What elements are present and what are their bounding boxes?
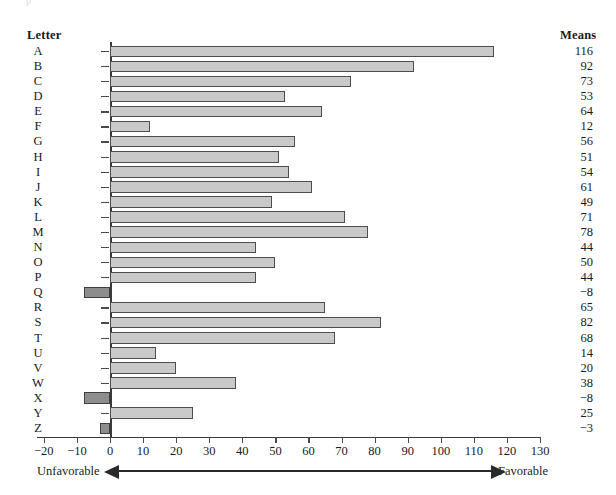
bar: [110, 46, 494, 58]
row-mean-value: 51: [555, 150, 593, 165]
row-mean-value: 14: [555, 346, 593, 361]
column-header-letter: Letter: [27, 28, 62, 43]
row-axis-tick: [101, 141, 109, 142]
bar-row: T68: [0, 331, 616, 346]
column-header-means: Means: [560, 28, 596, 43]
row-axis-tick: [101, 338, 109, 339]
x-axis-tick: [342, 437, 343, 443]
row-mean-value: 12: [555, 119, 593, 134]
row-mean-value: 68: [555, 331, 593, 346]
bar: [110, 407, 193, 419]
row-category-label: P: [27, 270, 49, 285]
bar: [84, 392, 110, 404]
favorability-scale-band: Unfavorable Favorable: [0, 462, 616, 484]
row-category-label: L: [27, 210, 49, 225]
bar-row: A116: [0, 44, 616, 59]
row-mean-value: 71: [555, 210, 593, 225]
row-mean-value: 44: [555, 270, 593, 285]
row-mean-value: 73: [555, 74, 593, 89]
row-category-label: T: [27, 331, 49, 346]
row-category-label: Q: [27, 285, 49, 300]
row-axis-tick: [101, 413, 109, 414]
row-mean-value: 61: [555, 180, 593, 195]
row-mean-value: 25: [555, 406, 593, 421]
bar: [110, 226, 368, 238]
row-axis-tick: [101, 247, 109, 248]
x-axis-tick-label: 130: [520, 444, 560, 459]
bar-row: X−8: [0, 391, 616, 406]
bar-row: E64: [0, 104, 616, 119]
bar: [110, 106, 322, 118]
row-category-label: H: [27, 150, 49, 165]
x-axis-tick: [176, 437, 177, 443]
bar-row: Q−8: [0, 285, 616, 300]
bar: [110, 362, 176, 374]
bar: [110, 272, 256, 284]
bar-row: B92: [0, 59, 616, 74]
row-axis-tick: [101, 66, 109, 67]
row-axis-tick: [101, 307, 109, 308]
row-category-label: M: [27, 225, 49, 240]
bar-row: M78: [0, 225, 616, 240]
bar-row: Y25: [0, 406, 616, 421]
page-bleed-top: p: [0, 0, 616, 7]
row-mean-value: 38: [555, 376, 593, 391]
row-axis-tick: [101, 202, 109, 203]
row-mean-value: 20: [555, 361, 593, 376]
row-axis-tick: [101, 368, 109, 369]
row-axis-tick: [101, 126, 109, 127]
x-axis-tick: [77, 437, 78, 443]
bar: [110, 61, 414, 73]
row-axis-tick: [101, 96, 109, 97]
bar: [110, 377, 236, 389]
row-mean-value: 54: [555, 165, 593, 180]
row-axis-tick: [101, 111, 109, 112]
x-axis-tick: [275, 437, 276, 443]
x-axis-tick: [308, 437, 309, 443]
row-category-label: G: [27, 134, 49, 149]
x-axis-tick: [44, 437, 45, 443]
row-axis-tick: [101, 217, 109, 218]
row-axis-tick: [101, 172, 109, 173]
bar: [110, 181, 312, 193]
x-axis-tick: [375, 437, 376, 443]
row-mean-value: 56: [555, 134, 593, 149]
row-category-label: U: [27, 346, 49, 361]
row-category-label: X: [27, 391, 49, 406]
bar: [110, 317, 381, 329]
x-axis-tick: [507, 437, 508, 443]
bar-row: W38: [0, 376, 616, 391]
row-axis-tick: [101, 262, 109, 263]
row-mean-value: 82: [555, 315, 593, 330]
row-mean-value: −3: [555, 421, 593, 436]
row-axis-tick: [101, 277, 109, 278]
bar-row: O50: [0, 255, 616, 270]
bar: [110, 211, 345, 223]
bar: [110, 91, 285, 103]
x-axis-tick: [110, 437, 111, 443]
bar-row: P44: [0, 270, 616, 285]
row-category-label: J: [27, 180, 49, 195]
row-category-label: O: [27, 255, 49, 270]
row-axis-tick: [101, 157, 109, 158]
row-category-label: W: [27, 376, 49, 391]
bar-row: S82: [0, 315, 616, 330]
bar-row: D53: [0, 89, 616, 104]
scale-arrow-line: [110, 470, 494, 472]
bar-row: L71: [0, 210, 616, 225]
bar: [110, 347, 156, 359]
row-category-label: N: [27, 240, 49, 255]
bar: [110, 257, 275, 269]
x-axis-tick: [474, 437, 475, 443]
bar: [110, 136, 295, 148]
bar: [110, 166, 289, 178]
row-mean-value: 65: [555, 300, 593, 315]
row-mean-value: 78: [555, 225, 593, 240]
row-axis-tick: [101, 383, 109, 384]
arrow-head-left-icon: [104, 465, 119, 479]
row-mean-value: 116: [555, 44, 593, 59]
x-axis-tick: [540, 437, 541, 443]
bar-row: I54: [0, 165, 616, 180]
bar: [110, 76, 351, 88]
bar-row: U14: [0, 346, 616, 361]
